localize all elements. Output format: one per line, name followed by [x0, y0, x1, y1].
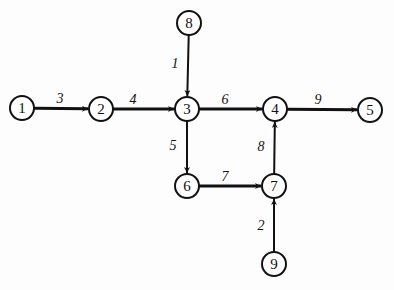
node-1: 1: [10, 96, 34, 120]
node-2: 2: [89, 97, 113, 121]
arrow-icon: [187, 35, 188, 96]
edge-weight-label: 2: [258, 218, 265, 233]
node-5: 5: [358, 98, 382, 122]
edge-4-to-5: 9: [287, 92, 357, 110]
node-7: 7: [262, 174, 286, 198]
edge-7-to-4: 8: [258, 122, 275, 174]
node-label: 7: [270, 178, 278, 194]
node-4: 4: [263, 97, 287, 121]
node-3: 3: [175, 97, 199, 121]
edge-weight-label: 5: [170, 138, 177, 153]
node-9: 9: [262, 252, 286, 276]
nodes-layer: 123456789: [10, 11, 382, 276]
node-6: 6: [175, 174, 199, 198]
edge-3-to-4: 6: [199, 92, 262, 109]
network-diagram: 341695782 123456789: [0, 0, 394, 290]
edge-weight-label: 9: [315, 92, 322, 107]
edge-weight-label: 1: [172, 56, 179, 71]
edge-9-to-7: 2: [258, 199, 275, 252]
edge-weight-label: 7: [222, 169, 230, 184]
arrow-icon: [274, 122, 275, 174]
edge-1-to-2: 3: [34, 91, 88, 109]
node-label: 1: [18, 100, 26, 116]
edge-2-to-3: 4: [113, 92, 174, 109]
node-label: 5: [366, 102, 374, 118]
arrow-icon: [287, 109, 357, 110]
arrow-icon: [34, 108, 88, 109]
node-8: 8: [177, 11, 201, 35]
edge-weight-label: 8: [258, 139, 265, 154]
node-label: 2: [97, 101, 105, 117]
edges-layer: 341695782: [34, 35, 357, 252]
edge-8-to-3: 1: [172, 35, 189, 96]
edge-6-to-7: 7: [199, 169, 261, 186]
node-label: 4: [271, 101, 279, 117]
node-label: 6: [183, 178, 191, 194]
edge-weight-label: 4: [130, 92, 137, 107]
edge-3-to-6: 5: [170, 121, 188, 173]
node-label: 3: [183, 101, 191, 117]
edge-weight-label: 6: [222, 92, 229, 107]
node-label: 8: [185, 15, 193, 31]
diagram-canvas: 341695782 123456789: [0, 0, 394, 290]
edge-weight-label: 3: [56, 91, 64, 106]
node-label: 9: [270, 256, 278, 272]
